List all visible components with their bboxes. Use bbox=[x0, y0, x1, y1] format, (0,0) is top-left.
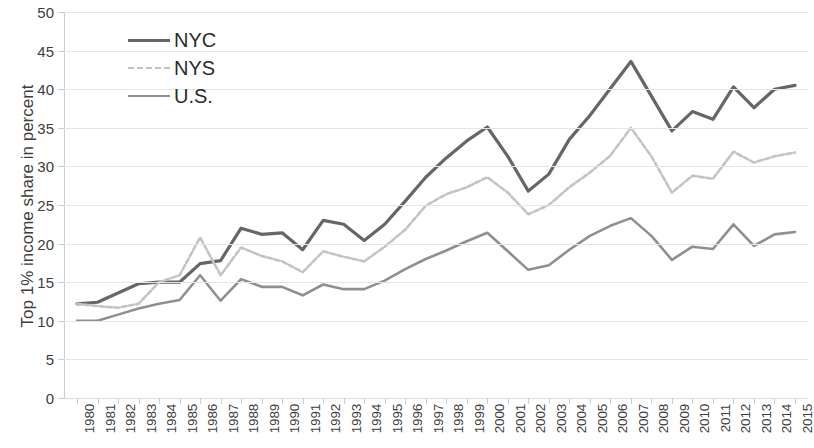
x-axis-tick-label: 1989 bbox=[267, 404, 282, 433]
x-axis-tick-mark bbox=[692, 398, 693, 404]
x-axis-tick-mark bbox=[528, 398, 529, 404]
y-axis-tick-mark bbox=[58, 321, 64, 322]
x-axis-tick-label: 1983 bbox=[144, 404, 159, 433]
y-axis-tick-mark bbox=[58, 244, 64, 245]
x-axis-tick-label: 2005 bbox=[595, 404, 610, 433]
x-axis-tick-label: 2009 bbox=[677, 404, 692, 433]
x-axis-tick-label: 1984 bbox=[164, 404, 179, 433]
x-axis-tick-mark bbox=[282, 398, 283, 404]
gridline bbox=[64, 205, 808, 206]
x-axis-tick-label: 2014 bbox=[779, 404, 794, 433]
x-axis-tick-mark bbox=[200, 398, 201, 404]
x-axis-tick-mark bbox=[139, 398, 140, 404]
y-axis-tick-label: 10 bbox=[20, 313, 54, 328]
x-axis-tick-label: 2006 bbox=[615, 404, 630, 433]
y-axis-tick-mark bbox=[58, 12, 64, 13]
y-axis-tick-label: 0 bbox=[20, 391, 54, 406]
x-axis-tick-mark bbox=[610, 398, 611, 404]
x-axis-tick-mark bbox=[344, 398, 345, 404]
y-axis-tick-label: 5 bbox=[20, 352, 54, 367]
x-axis-tick-label: 1991 bbox=[308, 404, 323, 433]
chart-legend: NYCNYSU.S. bbox=[128, 26, 278, 110]
x-axis-tick-mark bbox=[733, 398, 734, 404]
y-axis-tick-label: 50 bbox=[20, 5, 54, 20]
gridline bbox=[64, 321, 808, 322]
gridline bbox=[64, 359, 808, 360]
y-axis-tick-label: 45 bbox=[20, 43, 54, 58]
x-axis-tick-label: 2002 bbox=[533, 404, 548, 433]
x-axis-tick-label: 2001 bbox=[513, 404, 528, 433]
x-axis-tick-label: 1990 bbox=[287, 404, 302, 433]
series-line-us bbox=[77, 218, 795, 321]
legend-label: NYS bbox=[174, 58, 215, 78]
y-axis-tick-mark bbox=[58, 359, 64, 360]
x-axis-tick-label: 2008 bbox=[656, 404, 671, 433]
legend-item-nyc[interactable]: NYC bbox=[128, 26, 278, 54]
x-axis-tick-label: 1998 bbox=[451, 404, 466, 433]
x-axis-tick-label: 1994 bbox=[369, 404, 384, 433]
y-axis-tick-mark bbox=[58, 51, 64, 52]
y-axis-tick-mark bbox=[58, 205, 64, 206]
y-axis-tick-mark bbox=[58, 89, 64, 90]
x-axis-tick-label: 1997 bbox=[431, 404, 446, 433]
gridline bbox=[64, 282, 808, 283]
line-chart: Top 1% income share in percent 051015202… bbox=[0, 0, 814, 448]
x-axis-tick-mark bbox=[159, 398, 160, 404]
x-axis-tick-mark bbox=[754, 398, 755, 404]
x-axis-tick-label: 1993 bbox=[349, 404, 364, 433]
x-axis-tick-mark bbox=[795, 398, 796, 404]
x-axis-tick-mark bbox=[590, 398, 591, 404]
gridline bbox=[64, 244, 808, 245]
x-axis-tick-label: 2011 bbox=[718, 404, 733, 432]
legend-label: NYC bbox=[174, 30, 216, 50]
x-axis-tick-mark bbox=[487, 398, 488, 404]
x-axis-tick-mark bbox=[385, 398, 386, 404]
x-axis-tick-mark bbox=[631, 398, 632, 404]
x-axis-tick-label: 1995 bbox=[390, 404, 405, 433]
x-axis-tick-mark bbox=[405, 398, 406, 404]
x-axis-tick-mark bbox=[221, 398, 222, 404]
x-axis-tick-mark bbox=[303, 398, 304, 404]
x-axis-tick-label: 1988 bbox=[246, 404, 261, 433]
x-axis-tick-label: 1981 bbox=[103, 404, 118, 433]
y-axis-tick-mark bbox=[58, 282, 64, 283]
x-axis-tick-label: 2013 bbox=[759, 404, 774, 433]
x-axis-tick-mark bbox=[364, 398, 365, 404]
x-axis-tick-mark bbox=[713, 398, 714, 404]
x-axis-tick-label: 1987 bbox=[226, 404, 241, 433]
x-axis-tick-mark bbox=[323, 398, 324, 404]
x-axis-tick-label: 1985 bbox=[185, 404, 200, 433]
x-axis-tick-label: 2012 bbox=[738, 404, 753, 433]
gridline bbox=[64, 12, 808, 13]
legend-item-nys[interactable]: NYS bbox=[128, 54, 278, 82]
x-axis-tick-mark bbox=[77, 398, 78, 404]
series-line-nys bbox=[77, 128, 795, 308]
x-axis-tick-mark bbox=[549, 398, 550, 404]
x-axis-tick-mark bbox=[651, 398, 652, 404]
x-axis-tick-label: 1996 bbox=[410, 404, 425, 433]
x-axis-tick-mark bbox=[446, 398, 447, 404]
y-axis-tick-mark bbox=[58, 128, 64, 129]
y-axis-tick-label: 30 bbox=[20, 159, 54, 174]
y-axis-tick-label: 25 bbox=[20, 198, 54, 213]
legend-label: U.S. bbox=[174, 86, 213, 106]
x-axis-tick-label: 1986 bbox=[205, 404, 220, 433]
legend-item-us[interactable]: U.S. bbox=[128, 82, 278, 110]
y-axis-tick-labels: 05101520253035404550 bbox=[14, 0, 54, 448]
x-axis-tick-label: 2015 bbox=[800, 404, 814, 433]
x-axis-tick-mark bbox=[508, 398, 509, 404]
x-axis-tick-mark bbox=[426, 398, 427, 404]
y-axis-tick-mark bbox=[58, 398, 64, 399]
x-axis-tick-label: 1980 bbox=[82, 404, 97, 433]
x-axis-tick-label: 2007 bbox=[636, 404, 651, 433]
x-axis-tick-mark bbox=[118, 398, 119, 404]
y-axis-tick-label: 15 bbox=[20, 275, 54, 290]
x-axis-tick-label: 1992 bbox=[328, 404, 343, 433]
y-axis-tick-mark bbox=[58, 166, 64, 167]
x-axis-tick-mark bbox=[241, 398, 242, 404]
x-axis-tick-mark bbox=[467, 398, 468, 404]
x-axis-tick-label: 2000 bbox=[492, 404, 507, 433]
x-axis-tick-mark bbox=[98, 398, 99, 404]
gridline bbox=[64, 398, 808, 399]
legend-swatch-line-icon bbox=[128, 39, 170, 42]
